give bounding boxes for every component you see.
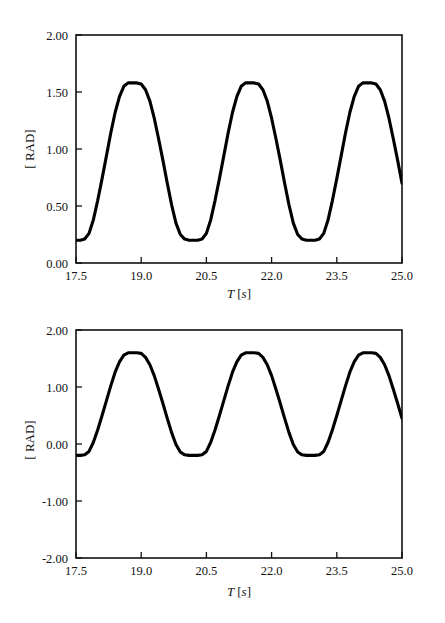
x-tick-label: 23.5	[326, 269, 348, 283]
series-line	[76, 353, 402, 456]
y-tick-label: 0.00	[46, 438, 68, 452]
y-tick-label: 2.00	[46, 324, 68, 338]
chart-svg-top: 0.000.501.001.502.0017.519.020.522.023.5…	[0, 0, 445, 311]
x-tick-label: 22.0	[261, 269, 283, 283]
x-tick-label: 25.0	[391, 564, 413, 578]
x-axis-title: T[s]	[227, 286, 251, 301]
x-axis-title: T[s]	[227, 584, 251, 599]
y-axis-title: [ RAD]	[22, 420, 37, 459]
chart-panel-top: 0.000.501.001.502.0017.519.020.522.023.5…	[0, 0, 445, 311]
y-tick-label: 1.00	[46, 381, 68, 395]
x-tick-label: 25.0	[391, 269, 413, 283]
x-tick-label: 19.0	[130, 564, 152, 578]
x-tick-label: 20.5	[195, 269, 217, 283]
x-tick-label: 17.5	[65, 269, 87, 283]
y-tick-label: 1.00	[46, 143, 68, 157]
y-tick-label: 0.50	[46, 200, 68, 214]
plot-frame	[76, 35, 402, 263]
x-tick-label: 17.5	[65, 564, 87, 578]
y-tick-label: -1.00	[42, 495, 68, 509]
x-tick-label: 19.0	[130, 269, 152, 283]
x-tick-label: 22.0	[261, 564, 283, 578]
y-axis-title: [ RAD]	[22, 129, 37, 168]
y-tick-label: 2.00	[46, 29, 68, 43]
chart-svg-bottom: -2.00-1.000.001.002.0017.519.020.522.023…	[0, 311, 445, 623]
x-tick-label: 20.5	[195, 564, 217, 578]
chart-panel-bottom: -2.00-1.000.001.002.0017.519.020.522.023…	[0, 311, 445, 623]
figure-page: 0.000.501.001.502.0017.519.020.522.023.5…	[0, 0, 445, 623]
series-line	[76, 83, 402, 240]
x-tick-label: 23.5	[326, 564, 348, 578]
y-tick-label: 1.50	[46, 86, 68, 100]
